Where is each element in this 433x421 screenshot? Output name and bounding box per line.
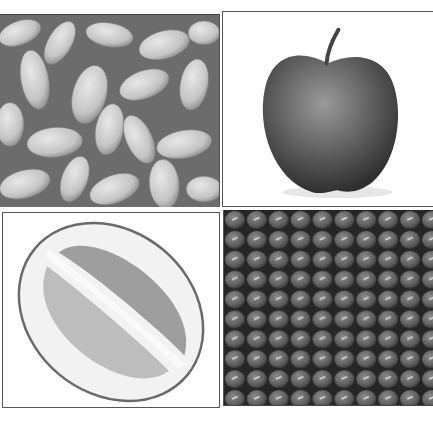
white-beans-photo <box>0 14 220 207</box>
apple-illustration <box>223 12 433 206</box>
mung-beans-illustration <box>224 210 433 405</box>
mung-beans-photo <box>223 210 433 406</box>
white-beans-illustration <box>0 15 219 207</box>
lime-half-photo <box>2 212 220 408</box>
lime-illustration <box>3 213 219 407</box>
apple-photo <box>222 11 433 207</box>
